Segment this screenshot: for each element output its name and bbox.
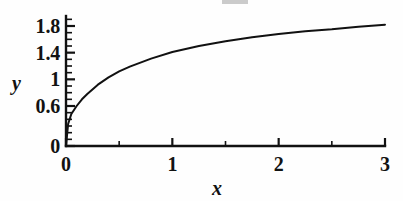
y-tick-label: 0.6 — [36, 96, 60, 116]
y-tick-label: 1 — [50, 69, 60, 89]
chart-figure: 00.611.41.8 0123 y x — [0, 0, 403, 201]
x-tick-label: 0 — [46, 154, 86, 174]
x-tick-label: 3 — [365, 154, 403, 174]
x-tick-label: 2 — [259, 154, 299, 174]
axes — [66, 16, 385, 146]
y-tick-label: 1.8 — [36, 16, 60, 36]
y-tick-label: 1.4 — [36, 43, 60, 63]
x-axis-title: x — [212, 178, 222, 198]
y-axis-title: y — [12, 73, 21, 93]
data-series-curve — [66, 25, 385, 146]
y-tick-label: 0 — [50, 136, 60, 156]
x-tick-label: 1 — [152, 154, 192, 174]
